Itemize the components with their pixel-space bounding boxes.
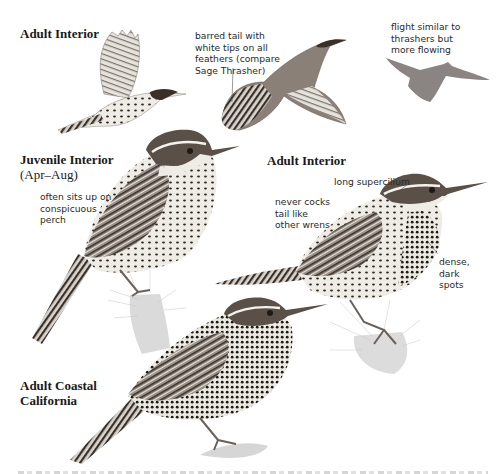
figure-title-text: Juvenile Interior <box>20 152 114 167</box>
figure-title-text: Adult Interior <box>267 153 346 168</box>
truncated-caption-line <box>18 468 488 474</box>
note-dense-dark-spots: dense, dark spots <box>439 256 470 291</box>
figure-subtitle-text: California <box>20 393 97 408</box>
field-guide-plate: Adult Interior barred tail with white ti… <box>0 0 504 474</box>
figure-title-juvenile-interior: Juvenile Interior (Apr–Aug) <box>20 152 114 182</box>
bird-adult-coastal-california <box>70 298 328 464</box>
figure-title-adult-interior-flight: Adult Interior <box>20 26 99 41</box>
figure-title-text: Adult Interior <box>20 26 99 41</box>
note-perch-behavior: often sits up on conspicuous perch <box>40 191 111 226</box>
note-flight-style: flight similar to thrashers but more flo… <box>391 21 460 56</box>
note-tail-posture: never cocks tail like other wrens <box>275 196 330 231</box>
figure-title-text: Adult Coastal <box>20 378 97 393</box>
note-barred-tail: barred tail with white tips on all feath… <box>195 30 280 76</box>
bird-flight-adult-interior <box>58 30 186 134</box>
note-long-supercilium: long supercilium <box>334 176 410 188</box>
figure-title-adult-coastal-california: Adult Coastal California <box>20 378 97 408</box>
figure-subtitle-text: (Apr–Aug) <box>20 167 114 182</box>
bird-flight-silhouette <box>386 58 490 102</box>
figure-title-adult-interior-perched: Adult Interior <box>267 153 346 168</box>
